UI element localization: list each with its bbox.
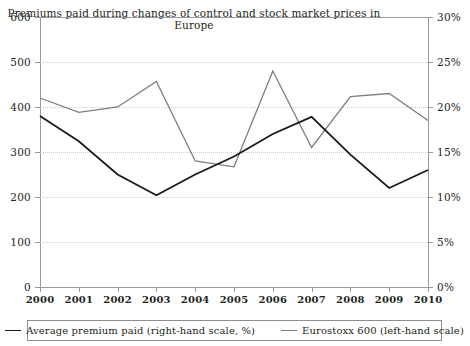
- x-axis-tick: [79, 287, 80, 292]
- y-axis-right-label: 0%: [437, 281, 454, 293]
- x-axis-tick: [428, 287, 429, 292]
- x-axis-tick: [389, 287, 390, 292]
- x-axis-label: 2006: [258, 294, 287, 305]
- y-axis-left-label: 300: [10, 146, 31, 158]
- line-eurostoxx-600: [40, 71, 428, 167]
- x-axis-tick: [312, 287, 313, 292]
- plot-area: 0100200300400500600 0%5%10%15%20%25%30% …: [40, 17, 428, 287]
- legend-label: Average premium paid (right-hand scale, …: [26, 325, 255, 336]
- series-lines: [40, 17, 428, 287]
- x-axis-label: 2002: [103, 294, 132, 305]
- x-axis-tick: [273, 287, 274, 292]
- y-axis-right-tick: [428, 62, 433, 63]
- x-axis-label: 2007: [297, 294, 326, 305]
- legend-line-icon-dark: [5, 330, 21, 331]
- y-axis-right-label: 10%: [437, 191, 461, 203]
- legend-label: Eurostoxx 600 (left-hand scale): [302, 325, 464, 336]
- legend-line-icon-gray: [281, 330, 297, 331]
- x-axis-label: 2004: [181, 294, 210, 305]
- y-axis-right-tick: [428, 197, 433, 198]
- x-axis-label: 2005: [220, 294, 249, 305]
- x-axis-tick: [234, 287, 235, 292]
- x-axis-label: 2000: [26, 294, 55, 305]
- x-axis-label: 2009: [375, 294, 404, 305]
- chart-legend: Average premium paid (right-hand scale, …: [27, 320, 442, 341]
- y-axis-right-tick: [428, 152, 433, 153]
- legend-item-average-premium-paid: Average premium paid (right-hand scale, …: [5, 325, 255, 336]
- y-axis-right-tick: [428, 242, 433, 243]
- x-axis-tick: [118, 287, 119, 292]
- x-axis-tick: [156, 287, 157, 292]
- legend-item-eurostoxx-600: Eurostoxx 600 (left-hand scale): [281, 325, 464, 336]
- y-axis-right-tick: [428, 17, 433, 18]
- x-axis-tick: [350, 287, 351, 292]
- y-axis-right-label: 30%: [437, 11, 461, 23]
- y-axis-left-label: 500: [10, 56, 31, 68]
- y-axis-left-label: 600: [10, 11, 31, 23]
- y-axis-left-label: 100: [10, 236, 31, 248]
- y-axis-left-label: 200: [10, 191, 31, 203]
- y-axis-right-tick: [428, 107, 433, 108]
- x-axis-label: 2008: [336, 294, 365, 305]
- chart-root: Premiums paid during changes of control …: [0, 0, 470, 346]
- x-axis-label: 2001: [64, 294, 93, 305]
- x-axis-tick: [195, 287, 196, 292]
- x-axis-label: 2003: [142, 294, 171, 305]
- y-axis-right-label: 15%: [437, 146, 461, 158]
- line-average-premium-paid: [40, 116, 428, 195]
- y-axis-left-label: 0: [24, 281, 31, 293]
- x-axis-label: 2010: [414, 294, 443, 305]
- y-axis-right-label: 25%: [437, 56, 461, 68]
- x-axis-tick: [40, 287, 41, 292]
- y-axis-right-label: 20%: [437, 101, 461, 113]
- y-axis-left-label: 400: [10, 101, 31, 113]
- y-axis-right-label: 5%: [437, 236, 454, 248]
